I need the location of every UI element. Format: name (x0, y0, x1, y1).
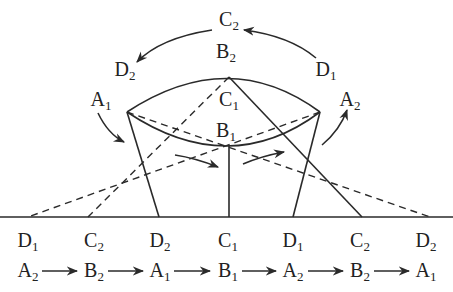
label-A2: A2 (340, 89, 361, 112)
ground-label-D2-right: D2 (416, 230, 437, 253)
sequence-item: B2 (84, 260, 104, 283)
arrow-D1-to-C2 (244, 30, 316, 58)
sequence-item: A1 (416, 260, 437, 283)
arrow-center-left (175, 155, 218, 167)
label-D1-right: D1 (316, 59, 337, 82)
label-D2-left: D2 (115, 59, 136, 82)
label-B1-mid: B1 (216, 120, 236, 143)
sequence-item: A1 (150, 260, 171, 283)
ground-label-D1-left: D1 (18, 230, 39, 253)
label-C1-mid: C1 (219, 89, 239, 112)
sequence-item: B2 (350, 260, 370, 283)
sequence-item: B1 (218, 260, 238, 283)
arrow-C2-to-D2 (137, 30, 212, 62)
ground-label-C2-right: C2 (350, 230, 370, 253)
ground-label-D2-left: D2 (150, 230, 171, 253)
label-A1: A1 (91, 89, 112, 112)
arrow-A1-down (98, 113, 124, 142)
arrow-A2-up (322, 110, 347, 145)
ground-label-C1: C1 (218, 230, 238, 253)
sequence-item: A2 (283, 260, 304, 283)
label-B2-top: B2 (216, 41, 236, 64)
arrow-center-right (243, 152, 284, 164)
label-C2-top: C2 (219, 9, 239, 32)
ground-label-D1-right: D1 (283, 230, 304, 253)
ground-label-C2-left: C2 (84, 230, 104, 253)
sequence-item: A2 (18, 260, 39, 283)
